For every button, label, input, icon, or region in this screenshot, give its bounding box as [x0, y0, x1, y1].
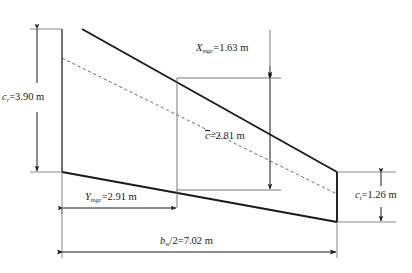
- xmgc-label: Xmgc=1.63 m: [196, 43, 248, 54]
- semispan-value: /2=7.02 m: [170, 235, 213, 246]
- ymgc-value: =2.91 m: [102, 191, 137, 202]
- tip-chord-label: ct=1.26 m: [355, 190, 397, 201]
- ymgc-subscript: mgc: [91, 196, 102, 203]
- ymgc-label: Ymgc=2.91 m: [85, 192, 137, 203]
- semispan-label: bw/2=7.02 m: [160, 236, 213, 247]
- xmgc-subscript: mgc: [202, 47, 213, 54]
- wing-planform-diagram: cr=3.90 m Xmgc=1.63 m c=2.81 m ct=1.26 m…: [0, 0, 412, 273]
- mac-symbol: c: [205, 131, 210, 142]
- root-chord-value: =3.90 m: [9, 91, 44, 102]
- root-chord-label: cr=3.90 m: [2, 92, 44, 103]
- mac-value: =2.81 m: [210, 130, 245, 141]
- mac-label: c=2.81 m: [205, 131, 245, 142]
- xmgc-value: =1.63 m: [213, 42, 248, 53]
- tip-chord-value: =1.26 m: [361, 189, 396, 200]
